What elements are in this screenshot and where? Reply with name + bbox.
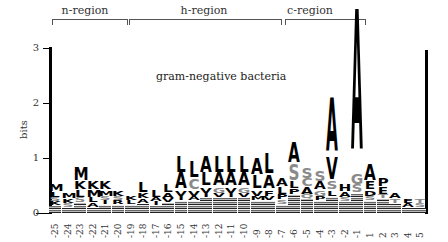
x-tick-labels: -25-24-23-22-21-20-19-18-17-16-15-14-13-…	[0, 0, 448, 242]
x-tick-label: -19	[126, 224, 136, 239]
x-tick-label: -9	[252, 229, 262, 238]
x-tick-label: 2	[378, 232, 388, 238]
x-tick-label: -5	[302, 229, 312, 238]
x-tick-label: -12	[214, 224, 224, 239]
x-tick-label: -10	[239, 224, 249, 239]
x-tick-label: -2	[340, 229, 350, 238]
x-tick-label: -25	[50, 224, 60, 239]
x-tick-label: -17	[151, 224, 161, 239]
x-tick-label: 3	[390, 232, 400, 238]
x-tick-label: -20	[113, 224, 123, 239]
x-tick-label: -11	[226, 224, 236, 239]
x-tick-label: -7	[277, 229, 287, 238]
x-tick-label: -3	[327, 229, 337, 238]
x-tick-label: -13	[201, 224, 211, 239]
x-tick-label: 1	[365, 232, 375, 238]
x-tick-label: 5	[415, 232, 425, 238]
x-tick-label: -1	[352, 229, 362, 238]
x-tick-label: -6	[289, 229, 299, 238]
x-tick-label: -4	[315, 229, 325, 238]
x-tick-label: -15	[176, 224, 186, 239]
x-tick-label: -16	[163, 224, 173, 239]
x-tick-label: -23	[75, 224, 85, 239]
x-tick-label: -18	[138, 224, 148, 239]
x-tick-label: -22	[88, 224, 98, 239]
x-tick-label: -24	[63, 224, 73, 239]
x-tick-label: 4	[403, 232, 413, 238]
x-tick-label: -8	[264, 229, 274, 238]
x-tick-label: -21	[100, 224, 110, 239]
x-tick-label: -14	[189, 224, 199, 239]
